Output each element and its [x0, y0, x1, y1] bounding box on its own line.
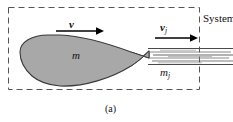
diagram-canvas: [0, 0, 233, 122]
body-shape: [20, 35, 149, 86]
body-mass-label: m: [72, 50, 80, 61]
figure-caption: (a): [105, 104, 116, 114]
jet-stream-group: [148, 49, 233, 65]
body-velocity-arrow: [56, 27, 104, 35]
jet-velocity-subscript: j: [165, 26, 167, 35]
body-velocity-label: v: [69, 19, 74, 30]
jet-mass-label: mj: [160, 67, 170, 80]
nozzle-taper: [131, 51, 149, 66]
jet-velocity-label: vj: [160, 22, 167, 35]
jet-mass-symbol: m: [160, 66, 168, 78]
jet-velocity-arrow: [155, 34, 198, 42]
jet-mass-subscript: j: [168, 71, 170, 80]
figure-container: v vj m mj System (a): [0, 0, 233, 122]
system-label: System: [203, 13, 233, 24]
